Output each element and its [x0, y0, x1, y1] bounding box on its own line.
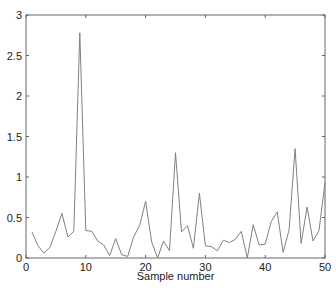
x-tick-label: 40	[259, 261, 271, 273]
x-axis-label: Sample number	[137, 270, 215, 282]
plot-area	[26, 15, 325, 258]
line-chart: 01020304050 00.511.522.53 Sample number	[0, 0, 336, 293]
x-tick-label: 50	[319, 261, 331, 273]
x-tick-label: 0	[23, 261, 29, 273]
axes-frame	[26, 15, 325, 258]
y-axis-tick-labels: 00.511.522.53	[7, 9, 22, 264]
y-tick-label: 1.5	[7, 131, 22, 143]
y-tick-label: 2	[16, 90, 22, 102]
y-tick-label: 0.5	[7, 212, 22, 224]
y-tick-label: 0	[16, 252, 22, 264]
x-tick-label: 10	[80, 261, 92, 273]
y-tick-label: 2.5	[7, 50, 22, 62]
chart-canvas: 01020304050 00.511.522.53 Sample number	[0, 0, 336, 293]
y-tick-label: 1	[16, 171, 22, 183]
y-tick-label: 3	[16, 9, 22, 21]
